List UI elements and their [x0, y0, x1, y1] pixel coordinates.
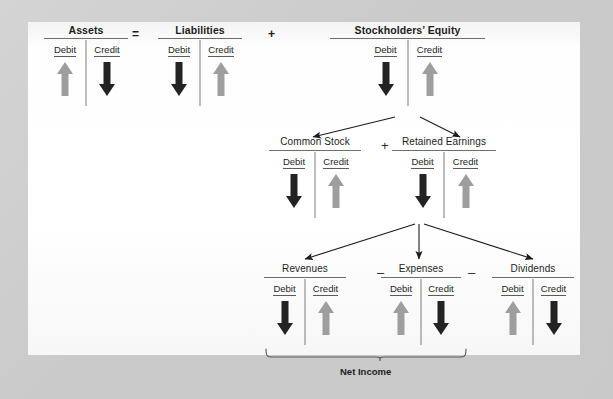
debit-column: Debit	[381, 278, 421, 338]
credit-arrow-cell	[86, 57, 128, 99]
credit-label: Credit	[428, 280, 453, 296]
account-title: Assets	[44, 24, 128, 36]
credit-arrow-cell	[421, 296, 461, 338]
account-assets: Assets Debit Credit	[44, 24, 128, 99]
t-account-columns: Debit Credit	[401, 151, 487, 211]
credit-column: Credit	[533, 278, 574, 338]
account-dividends: Dividends Debit Credit	[492, 263, 574, 338]
credit-column: Credit	[408, 39, 452, 99]
decrease-arrow-down-icon	[433, 301, 449, 335]
debit-column: Debit	[158, 39, 200, 99]
debit-label: Debit	[501, 280, 523, 296]
credit-arrow-cell	[533, 296, 574, 338]
credit-column: Credit	[86, 39, 128, 99]
credit-column: Credit	[305, 278, 346, 338]
decrease-arrow-down-icon	[277, 301, 293, 335]
t-account-columns: Debit Credit	[264, 278, 346, 338]
decrease-arrow-down-icon	[378, 62, 394, 96]
t-account-columns: Debit Credit	[158, 39, 242, 99]
t-account-columns: Debit Credit	[44, 39, 128, 99]
credit-label: Credit	[313, 280, 338, 296]
credit-column: Credit	[444, 151, 487, 211]
debit-arrow-cell	[492, 296, 533, 338]
decrease-arrow-down-icon	[99, 62, 115, 96]
debit-column: Debit	[273, 151, 315, 211]
increase-arrow-up-icon	[318, 301, 334, 335]
t-account-columns: Debit Credit	[364, 39, 452, 99]
account-title: Stockholders’ Equity	[330, 24, 485, 36]
operator-equals: =	[132, 28, 139, 40]
decrease-arrow-down-icon	[546, 301, 562, 335]
debit-arrow-cell	[264, 296, 305, 338]
credit-label: Credit	[417, 41, 442, 57]
debit-arrow-cell	[401, 169, 444, 211]
operator-plus-middle: +	[381, 140, 389, 152]
net-income-label: Net Income	[340, 366, 391, 377]
credit-label: Credit	[323, 153, 348, 169]
account-expenses: Expenses Debit Credit	[381, 263, 461, 338]
account-retained-earnings: Retained Earnings Debit Credit	[392, 136, 496, 211]
debit-arrow-cell	[381, 296, 421, 338]
credit-arrow-cell	[315, 169, 357, 211]
credit-column: Credit	[200, 39, 242, 99]
debit-column: Debit	[492, 278, 533, 338]
increase-arrow-up-icon	[458, 174, 474, 208]
diagram-canvas: = + + – – Assets Debit Credit	[0, 0, 613, 399]
credit-label: Credit	[94, 41, 119, 57]
debit-label: Debit	[390, 280, 412, 296]
debit-arrow-cell	[273, 169, 315, 211]
credit-label: Credit	[541, 280, 566, 296]
debit-column: Debit	[44, 39, 86, 99]
increase-arrow-up-icon	[422, 62, 438, 96]
credit-label: Credit	[208, 41, 233, 57]
debit-arrow-cell	[364, 57, 408, 99]
account-title: Liabilities	[158, 24, 242, 36]
credit-arrow-cell	[444, 169, 487, 211]
account-title: Retained Earnings	[392, 136, 496, 148]
debit-label: Debit	[374, 41, 396, 57]
t-account-columns: Debit Credit	[492, 278, 574, 338]
credit-arrow-cell	[200, 57, 242, 99]
account-title: Common Stock	[269, 136, 361, 148]
account-revenues: Revenues Debit Credit	[264, 263, 346, 338]
account-common-stock: Common Stock Debit Credit	[269, 136, 361, 211]
debit-label: Debit	[283, 153, 305, 169]
t-account-columns: Debit Credit	[381, 278, 461, 338]
increase-arrow-up-icon	[393, 301, 409, 335]
credit-arrow-cell	[305, 296, 346, 338]
debit-arrow-cell	[158, 57, 200, 99]
debit-label: Debit	[54, 41, 76, 57]
debit-label: Debit	[411, 153, 433, 169]
account-title: Revenues	[264, 263, 346, 275]
account-title: Dividends	[492, 263, 574, 275]
account-title: Expenses	[381, 263, 461, 275]
credit-column: Credit	[315, 151, 357, 211]
debit-label: Debit	[273, 280, 295, 296]
decrease-arrow-down-icon	[171, 62, 187, 96]
increase-arrow-up-icon	[505, 301, 521, 335]
credit-arrow-cell	[408, 57, 452, 99]
account-liabilities: Liabilities Debit Credit	[158, 24, 242, 99]
operator-minus-expenses-dividends: –	[468, 267, 475, 279]
debit-column: Debit	[264, 278, 305, 338]
decrease-arrow-down-icon	[415, 174, 431, 208]
debit-arrow-cell	[44, 57, 86, 99]
decrease-arrow-down-icon	[286, 174, 302, 208]
increase-arrow-up-icon	[57, 62, 73, 96]
increase-arrow-up-icon	[213, 62, 229, 96]
credit-column: Credit	[421, 278, 461, 338]
credit-label: Credit	[453, 153, 478, 169]
operator-plus-top: +	[268, 28, 275, 40]
debit-column: Debit	[364, 39, 408, 99]
account-stockholders-equity: Stockholders’ Equity Debit Credit	[330, 24, 485, 99]
debit-column: Debit	[401, 151, 444, 211]
increase-arrow-up-icon	[328, 174, 344, 208]
t-account-columns: Debit Credit	[273, 151, 357, 211]
debit-label: Debit	[168, 41, 190, 57]
